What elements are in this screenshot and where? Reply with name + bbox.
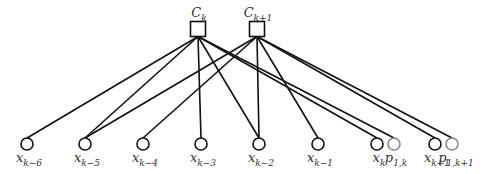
variable-node-xk3 [195, 138, 207, 150]
factor-label: Ck+1 [244, 5, 273, 23]
variable-node-xk5 [79, 138, 91, 150]
factor-node-Ck1 [250, 22, 265, 37]
edge-Ck1-xkp1 [257, 37, 435, 139]
edge-Ck-xk5 [85, 37, 198, 139]
variable-label: xk−5 [74, 150, 100, 168]
variable-label: xk−6 [16, 150, 42, 168]
edge-Ck-p1k [198, 37, 394, 139]
variable-node-xk6 [21, 138, 33, 150]
factor-label: Ck [191, 5, 206, 23]
variable-label: xk [373, 150, 386, 168]
variable-node-xk [371, 138, 383, 150]
variable-label: xk−3 [190, 150, 216, 168]
factor-graph [0, 0, 494, 174]
variable-label: xk−1 [307, 150, 333, 168]
variable-label: xk−2 [248, 150, 274, 168]
variable-label: xk−4 [132, 150, 158, 168]
variable-node-p1kp1 [446, 138, 458, 150]
variable-node-xkp1 [429, 138, 441, 150]
variable-node-p1k [388, 138, 400, 150]
edge-Ck1-xk2 [257, 37, 259, 139]
variable-node-xk2 [253, 138, 265, 150]
variable-label: p1,k [385, 150, 407, 168]
variable-node-xk4 [137, 138, 149, 150]
factor-node-Ck [191, 22, 206, 37]
variable-node-xk1 [312, 138, 324, 150]
variable-label: p1,k+1 [438, 150, 474, 168]
